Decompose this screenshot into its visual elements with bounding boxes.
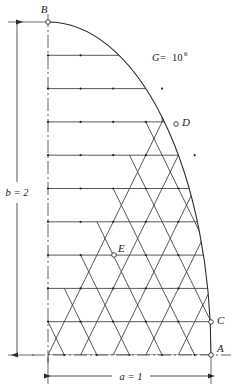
material-symbol: G: [152, 52, 160, 63]
point-label-b: B: [41, 3, 48, 15]
material-exponent: 6: [184, 50, 188, 58]
height-dimension-label: b = 2: [6, 187, 30, 198]
point-marker-e: [112, 253, 117, 258]
width-dimension-label: a = 1: [120, 371, 143, 382]
point-label-c: C: [217, 314, 225, 326]
dimension-height: b = 2: [6, 22, 50, 355]
dimension-width: a = 1: [48, 357, 211, 384]
mesh-diagram: b = 2 a = 1 B D E C A G = 10 6: [0, 0, 238, 392]
point-marker-a: [209, 353, 214, 358]
triangular-mesh: [48, 22, 227, 355]
point-marker-d: [174, 122, 179, 127]
point-label-e: E: [117, 242, 125, 254]
point-label-d: D: [181, 116, 190, 128]
material-equals: =: [160, 52, 166, 63]
point-label-a: A: [216, 342, 224, 354]
figure-container: b = 2 a = 1 B D E C A G = 10 6: [0, 0, 238, 392]
mesh-horizontal-lines: [48, 22, 215, 355]
material-base: 10: [172, 52, 183, 63]
point-marker-c: [209, 320, 214, 325]
point-marker-b: [46, 20, 51, 25]
material-property-label: G = 10 6: [152, 50, 188, 63]
